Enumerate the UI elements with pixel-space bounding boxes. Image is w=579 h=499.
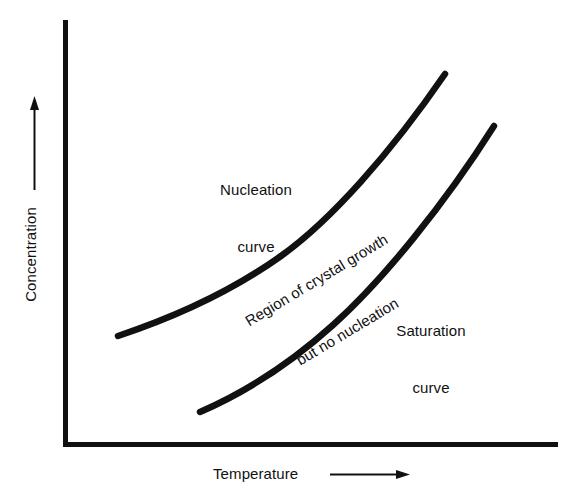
- saturation-label-line-2: curve: [366, 378, 496, 397]
- crystallization-phase-diagram: Nucleation curve Saturation curve Region…: [0, 0, 579, 499]
- x-axis-label: Temperature: [213, 464, 333, 483]
- y-axis-arrow-icon: [30, 96, 39, 190]
- y-axis-label: Concentration: [21, 195, 40, 315]
- x-axis-arrow-icon: [330, 470, 410, 479]
- nucleation-label-line-1: Nucleation: [191, 180, 321, 199]
